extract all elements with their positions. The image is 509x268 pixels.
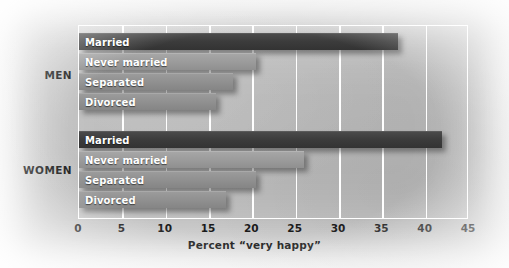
xtick-25: 25 — [275, 222, 315, 234]
bar-label: Married — [85, 36, 130, 47]
xtick-20: 20 — [231, 222, 271, 234]
xtick-30: 30 — [318, 222, 358, 234]
xtick-35: 35 — [361, 222, 401, 234]
group-label-women: WOMEN — [14, 164, 72, 176]
xtick-45: 45 — [448, 222, 488, 234]
bar-women-divorced: Divorced — [79, 191, 226, 208]
xtick-0: 0 — [58, 222, 98, 234]
bar-label: Never married — [85, 154, 168, 165]
bar-men-never-married: Never married — [79, 53, 256, 70]
bar-men-divorced: Divorced — [79, 93, 216, 110]
bar-women-never-married: Never married — [79, 151, 304, 168]
bar-label: Separated — [85, 174, 144, 185]
chart-figure: MEN WOMEN Married Never married Separate… — [0, 0, 509, 268]
plot-area: Married Never married Separated Divorced… — [78, 25, 468, 219]
bar-women-separated: Separated — [79, 171, 256, 188]
bar-label: Divorced — [85, 96, 136, 107]
xtick-5: 5 — [101, 222, 141, 234]
bar-label: Divorced — [85, 194, 136, 205]
bar-women-married: Married — [79, 131, 442, 148]
bar-men-separated: Separated — [79, 73, 233, 90]
bar-label: Married — [85, 134, 130, 145]
x-axis-label: Percent “very happy” — [0, 239, 509, 251]
xtick-15: 15 — [188, 222, 228, 234]
gridline-35 — [382, 26, 384, 218]
gridline-25 — [296, 26, 298, 218]
xtick-10: 10 — [145, 222, 185, 234]
bar-label: Never married — [85, 56, 168, 67]
bar-fill — [79, 131, 442, 148]
gridline-40 — [426, 26, 428, 218]
bar-men-married: Married — [79, 33, 398, 50]
group-label-men: MEN — [24, 69, 72, 81]
gridline-30 — [339, 26, 341, 218]
xtick-40: 40 — [405, 222, 445, 234]
bar-label: Separated — [85, 76, 144, 87]
